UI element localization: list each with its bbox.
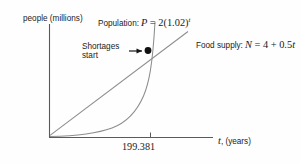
population-equation-lhs: P <box>141 17 147 28</box>
population-equation-equals: = <box>150 17 156 28</box>
annotation-shortages-start: Shortages start <box>82 42 119 60</box>
y-axis-label: people (millions) <box>23 14 83 23</box>
x-axis-label: t, (years) <box>218 130 251 148</box>
series-label-food-supply: Food supply:N = 4 + 0.5t <box>196 34 295 52</box>
food-supply-label-text: Food supply: <box>196 41 243 50</box>
population-food-supply-chart: people (millions) Population:P = 2(1.02)… <box>0 0 301 164</box>
x-axis-label-unit: , (years) <box>221 137 251 146</box>
population-curve <box>50 22 155 137</box>
population-equation: P = 2(1.02)t <box>141 17 191 28</box>
annotation-shortages-line2: start <box>82 51 119 60</box>
food-equation-rhs-var: t <box>292 39 295 50</box>
population-equation-exponent: t <box>189 16 191 24</box>
series-label-population: Population:P = 2(1.02)t <box>98 12 191 30</box>
food-equation-rhs: 4 + 0.5 <box>263 39 292 50</box>
food-equation-equals: = <box>254 39 260 50</box>
food-equation-lhs: N <box>245 39 252 50</box>
population-label-text: Population: <box>98 19 139 28</box>
population-equation-rhs: 2(1.02) <box>158 17 188 28</box>
annotation-shortages-line1: Shortages <box>82 42 119 51</box>
food-supply-equation: N = 4 + 0.5t <box>245 39 295 50</box>
x-axis-tick-label: 199.381 <box>122 141 155 152</box>
intersection-point-marker <box>145 47 152 54</box>
shortages-arrow-head <box>137 48 143 53</box>
